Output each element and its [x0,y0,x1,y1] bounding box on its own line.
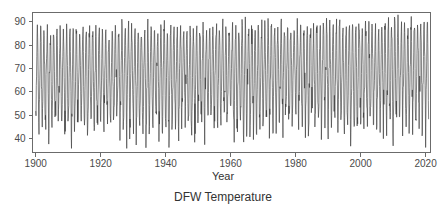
y-tick-label: 60 [14,86,26,97]
x-axis-title: Year [212,170,235,182]
y-tick-label: 50 [14,110,26,121]
x-tick-label: 1960 [220,158,243,169]
x-tick-label: 2020 [415,158,438,169]
x-tick-label: 1900 [25,158,48,169]
y-tick-label: 40 [14,133,26,144]
x-tick-label: 1980 [285,158,308,169]
y-tick-label: 80 [14,40,26,51]
x-tick-label: 2000 [350,158,373,169]
temperature-time-series-plot: 405060708090 190019201940196019802000202… [0,0,446,215]
y-tick-label: 70 [14,63,26,74]
chart-title: DFW Temperature [174,190,272,204]
chart-figure: 405060708090 190019201940196019802000202… [0,0,446,215]
x-tick-label: 1940 [155,158,178,169]
y-tick-label: 90 [14,16,26,27]
x-tick-label: 1920 [90,158,113,169]
